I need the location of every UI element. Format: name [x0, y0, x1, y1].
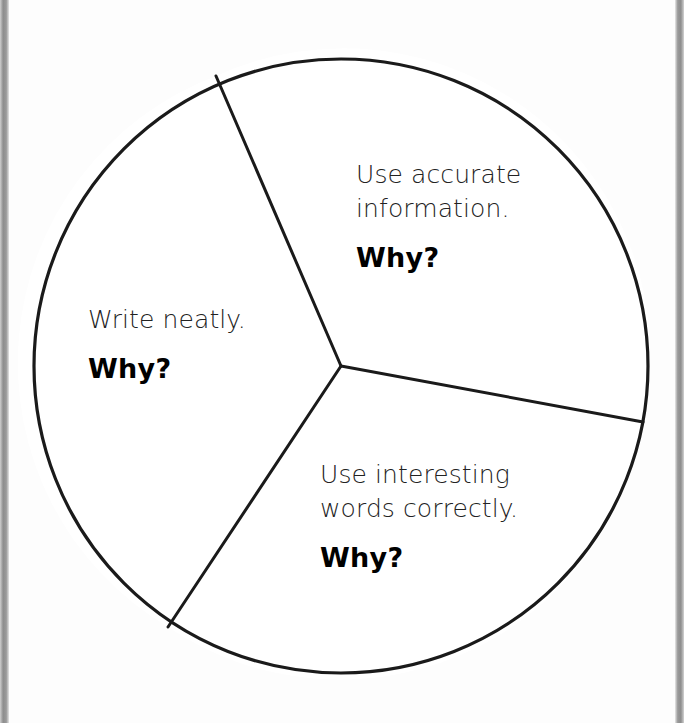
sector-why-prompt-interesting-words: Why? [320, 542, 570, 573]
sector-statement-accurate-information: Use accurate information. [356, 158, 586, 226]
sector-why-prompt-write-neatly: Why? [88, 353, 298, 384]
worksheet-page: Use accurate information. Why? Write nea… [0, 0, 685, 723]
sector-label-write-neatly: Write neatly. Why? [88, 303, 298, 384]
sector-why-prompt-accurate-information: Why? [356, 242, 586, 273]
sector-label-interesting-words: Use interesting words correctly. Why? [320, 458, 570, 573]
sector-statement-write-neatly: Write neatly. [88, 303, 298, 337]
sector-statement-interesting-words: Use interesting words correctly. [320, 458, 570, 526]
sector-label-accurate-information: Use accurate information. Why? [356, 158, 586, 273]
